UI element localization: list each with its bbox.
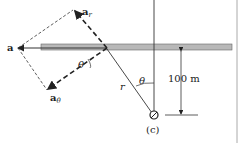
- radial-line-r: [107, 49, 152, 113]
- label-theta-2: θ: [139, 75, 145, 86]
- label-ar: ar: [82, 6, 92, 19]
- label-a: a: [7, 42, 14, 53]
- construction-line-bottom: [18, 48, 47, 90]
- track-bar: [41, 44, 232, 50]
- label-distance: 100 m: [168, 73, 200, 84]
- construction-line-top: [18, 10, 73, 48]
- label-r: r: [120, 81, 126, 92]
- figure-caption: (c): [146, 124, 160, 135]
- diagram-canvas: a ar aθ θ θ r 100 m (c): [0, 0, 241, 143]
- label-theta-1: θ: [78, 59, 84, 70]
- label-atheta: aθ: [50, 92, 61, 105]
